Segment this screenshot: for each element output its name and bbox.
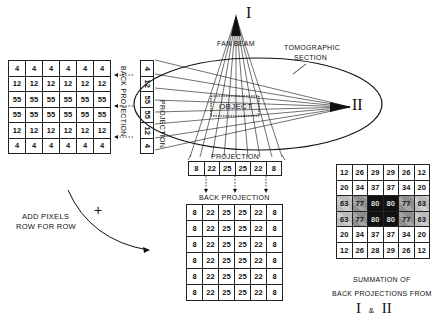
bottom-projection-row: 8 22 25 25 22 8 [188, 161, 282, 176]
grid-cell: 8 [267, 205, 283, 221]
back-projection-side-label: BACK PROJECTION [120, 66, 127, 137]
grid-cell: 63 [337, 211, 353, 227]
projection-cell: 4 [139, 62, 155, 75]
grid-cell: 37 [383, 180, 399, 196]
grid-cell: 22 [203, 221, 219, 237]
grid-cell: 25 [235, 205, 251, 221]
grid-cell: 12 [77, 123, 94, 139]
grid-cell: 12 [43, 123, 60, 139]
grid-cell: 22 [251, 253, 267, 269]
grid-cell: 34 [352, 227, 368, 243]
grid-cell: 20 [337, 227, 353, 243]
grid-cell: 4 [77, 138, 94, 154]
grid-cell: 4 [94, 138, 111, 154]
grid-cell: 26 [352, 165, 368, 181]
grid-cell: 25 [235, 285, 251, 301]
grid-cell: 8 [187, 221, 203, 237]
grid-cell: 4 [94, 61, 111, 77]
grid-cell: 25 [219, 269, 235, 285]
grid-cell: 22 [251, 237, 267, 253]
grid-cell: 8 [267, 253, 283, 269]
grid-cell: 8 [187, 269, 203, 285]
source-one-label: I [246, 4, 251, 22]
summation-grid: 12 26 29 29 26 12 20 34 37 37 34 20 63 7… [336, 164, 430, 259]
grid-cell: 34 [399, 180, 415, 196]
source-one-point [231, 14, 241, 36]
bottom-back-projection-grid: 8 22 25 25 22 8 8 22 25 25 22 8 8 22 25 … [186, 204, 283, 301]
grid-cell: 29 [368, 165, 384, 181]
grid-cell: 12 [94, 76, 111, 92]
source-two-point [330, 102, 350, 112]
grid-cell: 63 [414, 196, 430, 212]
source-two-label: II [352, 96, 363, 114]
projection-cell: 22 [204, 162, 220, 176]
grid-cell: 22 [251, 205, 267, 221]
grid-cell: 4 [60, 61, 77, 77]
grid-cell: 12 [414, 242, 430, 258]
grid-cell: 4 [43, 61, 60, 77]
grid-cell: 55 [26, 107, 43, 123]
grid-cell: 12 [43, 76, 60, 92]
grid-cell: 55 [60, 107, 77, 123]
grid-cell: 22 [251, 221, 267, 237]
tomographic-pointer [293, 64, 306, 74]
summation-caption-line2: BACK PROJECTIONS FROM [332, 290, 432, 297]
grid-cell: 8 [187, 205, 203, 221]
grid-cell: 25 [219, 253, 235, 269]
grid-cell: 8 [187, 237, 203, 253]
grid-cell: 34 [352, 180, 368, 196]
grid-cell: 55 [26, 92, 43, 108]
grid-cell: 25 [219, 285, 235, 301]
add-pixels-curve-arrow [68, 190, 148, 250]
add-pixels-label-line1: ADD PIXELS [22, 212, 69, 221]
grid-cell: 12 [26, 123, 43, 139]
projection-cell: 12 [139, 124, 155, 137]
grid-cell: 8 [267, 269, 283, 285]
grid-cell: 80 [383, 211, 399, 227]
grid-cell: 20 [337, 180, 353, 196]
grid-cell: 12 [9, 123, 26, 139]
projection-cell: 25 [235, 162, 251, 176]
tomographic-label-line2: SECTION [294, 54, 327, 61]
grid-cell: 25 [235, 253, 251, 269]
grid-cell: 37 [383, 227, 399, 243]
grid-cell: 12 [77, 76, 94, 92]
grid-cell: 77 [399, 196, 415, 212]
grid-cell: 12 [60, 123, 77, 139]
summation-caption-line3: I & II [356, 300, 392, 317]
projection-cell: 55 [139, 108, 155, 121]
grid-cell: 29 [383, 242, 399, 258]
grid-cell: 8 [267, 237, 283, 253]
object-label: OBJECT [219, 102, 252, 111]
grid-cell: 12 [94, 123, 111, 139]
grid-cell: 55 [43, 107, 60, 123]
grid-cell: 55 [94, 92, 111, 108]
grid-cell: 80 [368, 211, 384, 227]
grid-cell: 8 [187, 285, 203, 301]
projection-bottom-label: PROJECTION [211, 153, 259, 160]
projection-cell: 12 [139, 77, 155, 90]
grid-cell: 25 [219, 237, 235, 253]
projection-cell: 4 [139, 139, 155, 152]
grid-cell: 25 [219, 221, 235, 237]
fan-beam-label: FAN BEAM [217, 40, 255, 47]
projection-cell: 22 [251, 162, 267, 176]
projection-cell: 55 [139, 93, 155, 106]
back-projection-bottom-label: BACK PROJECTION [199, 194, 270, 201]
grid-cell: 22 [251, 285, 267, 301]
grid-cell: 12 [414, 165, 430, 181]
add-pixels-label-line2: ROW FOR ROW [16, 222, 76, 231]
grid-cell: 4 [9, 61, 26, 77]
grid-cell: 12 [9, 76, 26, 92]
projection-side-label: PROJECTION [159, 100, 166, 148]
grid-cell: 12 [26, 76, 43, 92]
grid-cell: 55 [43, 92, 60, 108]
grid-cell: 55 [9, 92, 26, 108]
grid-cell: 4 [43, 138, 60, 154]
grid-cell: 25 [235, 221, 251, 237]
grid-cell: 20 [414, 227, 430, 243]
grid-cell: 26 [352, 242, 368, 258]
grid-cell: 55 [60, 92, 77, 108]
projection-cell: 25 [220, 162, 236, 176]
add-pixels-arrowhead [143, 247, 150, 253]
